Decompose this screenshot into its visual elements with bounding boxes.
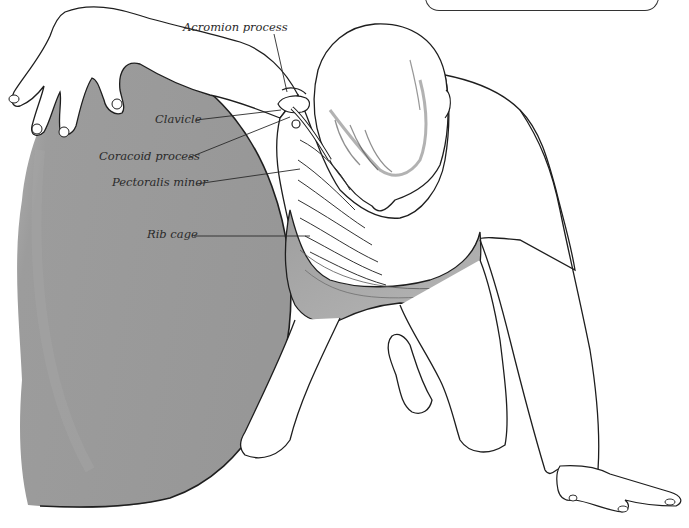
label-pectoralis-minor: Pectoralis minor	[112, 177, 208, 189]
anatomy-illustration	[0, 0, 689, 528]
label-rib-cage: Rib cage	[147, 229, 198, 241]
label-acromion-process: Acromion process	[183, 22, 288, 34]
right-hand	[557, 466, 681, 512]
label-clavicle: Clavicle	[155, 114, 201, 126]
label-coracoid-process: Coracoid process	[99, 151, 200, 163]
